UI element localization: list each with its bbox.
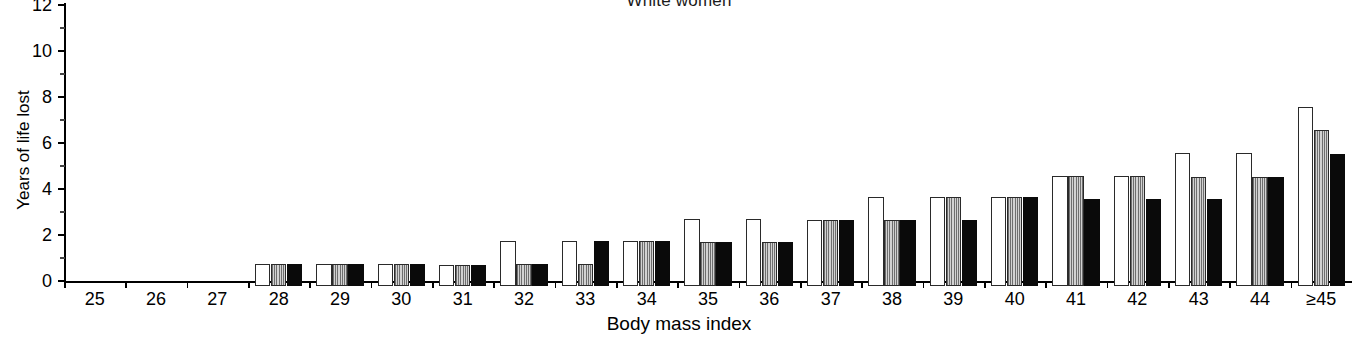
bar-white [991,197,1007,286]
x-tick-label: 35 [677,290,738,308]
bar-gray [455,265,471,286]
bar-gray [1130,176,1146,286]
x-tick-label: 38 [861,290,922,308]
bar-group [746,10,794,286]
bar-gray [394,264,410,286]
bar-group [1114,10,1162,286]
bar-group [1298,10,1346,286]
bar-white [746,219,762,286]
bar-gray [1314,130,1330,286]
x-tick-label: 44 [1229,290,1290,308]
bar-white [1175,153,1191,286]
x-tick [371,281,373,288]
bar-gray [578,264,594,286]
x-tick-label: 30 [371,290,432,308]
bar-white [1236,153,1252,286]
bar-white [500,241,516,286]
bar-black [716,242,732,286]
bar-white [623,241,639,286]
bar-black [1268,177,1284,286]
bar-group [930,10,978,286]
x-tick [248,281,250,288]
x-tick [1229,281,1231,288]
x-tick-label: 33 [555,290,616,308]
bar-group [991,10,1039,286]
x-tick-label: 41 [1045,290,1106,308]
x-tick-label: 43 [1168,290,1229,308]
bar-white [684,219,700,286]
y-tick-label: 0 [6,272,52,290]
bar-group [132,10,180,286]
bar-group [562,10,610,286]
x-tick [861,281,863,288]
x-tick [1107,281,1109,288]
bar-group [623,10,671,286]
bar-gray [946,197,962,286]
bar-group [868,10,916,286]
bar-gray [884,220,900,286]
bar-black [778,242,794,286]
bar-group [71,10,119,286]
bar-group [500,10,548,286]
bar-white [807,220,823,286]
bar-black [1207,199,1223,286]
x-tick [800,281,802,288]
bar-group [684,10,732,286]
x-tick [1291,281,1293,288]
bar-white [439,265,455,286]
bar-black [594,241,610,286]
plot-area [64,5,1352,281]
chart-figure: White women Years of life lost 024681012… [0,0,1358,341]
bar-group [194,10,242,286]
bar-white [378,264,394,286]
bar-gray [1007,197,1023,286]
x-tick-label: 28 [248,290,309,308]
x-tick [984,281,986,288]
x-tick [432,281,434,288]
x-tick [555,281,557,288]
bar-black [287,264,303,286]
bar-gray [516,264,532,286]
y-tick-label: 4 [6,180,52,198]
x-tick-label: 37 [800,290,861,308]
x-tick [923,281,925,288]
x-tick-label: 36 [739,290,800,308]
bar-gray [1191,177,1207,286]
x-tick [616,281,618,288]
bar-black [348,264,364,286]
bar-black [1146,199,1162,286]
y-tick-label: 6 [6,134,52,152]
bar-group [378,10,426,286]
x-tick-label: 39 [923,290,984,308]
x-tick [739,281,741,288]
x-tick-label: 26 [125,290,186,308]
bar-gray [1252,177,1268,286]
x-tick-label: 42 [1107,290,1168,308]
bar-black [1330,154,1346,286]
bar-group [1175,10,1223,286]
x-axis-label-wrap: Body mass index [0,313,1358,335]
x-tick [677,281,679,288]
bar-gray [332,264,348,286]
bar-white [868,197,884,286]
bar-white [930,197,946,286]
x-tick-label: ≥45 [1291,290,1352,308]
bar-black [655,241,671,286]
bar-white [1052,176,1068,286]
bar-black [471,265,487,286]
bar-gray [762,242,778,286]
bar-group [1236,10,1284,286]
x-tick [1045,281,1047,288]
bar-black [410,264,426,286]
x-axis-label: Body mass index [607,313,752,334]
y-tick-label: 8 [6,88,52,106]
bar-white [1298,107,1314,286]
bar-black [900,220,916,286]
bar-black [1023,197,1039,286]
bar-black [1084,199,1100,286]
bar-white [1114,176,1130,286]
bar-group [1052,10,1100,286]
x-tick-label: 25 [64,290,125,308]
bar-group [439,10,487,286]
bar-group [255,10,303,286]
